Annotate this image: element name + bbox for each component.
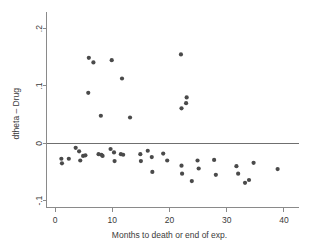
data-point: [195, 158, 199, 162]
y-tick-label-3: .2: [35, 25, 45, 32]
data-point: [60, 161, 64, 165]
data-point: [121, 153, 125, 157]
data-point: [185, 95, 189, 99]
data-point: [128, 115, 132, 119]
x-tick-label-3: 30: [222, 215, 232, 225]
data-point: [161, 152, 165, 156]
x-tick-label-0: 0: [53, 215, 58, 225]
data-point: [74, 146, 78, 150]
data-point: [139, 159, 143, 163]
y-tick-label-2: .1: [35, 82, 45, 89]
data-point: [91, 60, 95, 64]
data-point: [180, 172, 184, 176]
data-point: [236, 172, 240, 176]
data-point: [99, 114, 103, 118]
scatter-plot-figure: -.10.1.2010203040Months to death or end …: [0, 0, 317, 252]
data-point: [112, 159, 116, 163]
data-point: [212, 158, 216, 162]
data-point: [179, 52, 183, 56]
data-point: [247, 178, 251, 182]
data-point: [78, 158, 82, 162]
data-point: [87, 56, 91, 60]
data-point: [150, 155, 154, 159]
data-point: [179, 106, 183, 110]
data-point: [184, 101, 188, 105]
data-point: [165, 158, 169, 162]
x-tick-label-2: 20: [165, 215, 175, 225]
data-point: [100, 154, 104, 158]
x-tick-label-4: 40: [279, 215, 289, 225]
data-point: [110, 58, 114, 62]
data-point: [276, 167, 280, 171]
data-point: [120, 76, 124, 80]
data-point: [108, 147, 112, 151]
plot-canvas: -.10.1.2010203040Months to death or end …: [0, 0, 317, 252]
series-0: [59, 52, 279, 185]
data-point: [252, 161, 256, 165]
y-tick-label-0: -.1: [35, 195, 45, 205]
data-point: [146, 149, 150, 153]
data-point: [67, 157, 71, 161]
data-point: [150, 170, 154, 174]
data-point: [214, 173, 218, 177]
y-tick-label-1: 0: [35, 141, 45, 146]
data-point: [86, 91, 90, 95]
data-point: [138, 152, 142, 156]
data-point: [234, 164, 238, 168]
data-point: [190, 179, 194, 183]
data-point: [243, 181, 247, 185]
x-axis-title: Months to death or end of exp.: [112, 230, 227, 240]
data-point: [77, 149, 81, 153]
y-axis-title: dtheta – Drug: [11, 88, 21, 140]
x-tick-label-1: 10: [108, 215, 118, 225]
data-point: [112, 150, 116, 154]
data-point: [197, 166, 201, 170]
data-point: [83, 153, 87, 157]
data-point: [179, 164, 183, 168]
data-point: [59, 157, 63, 161]
